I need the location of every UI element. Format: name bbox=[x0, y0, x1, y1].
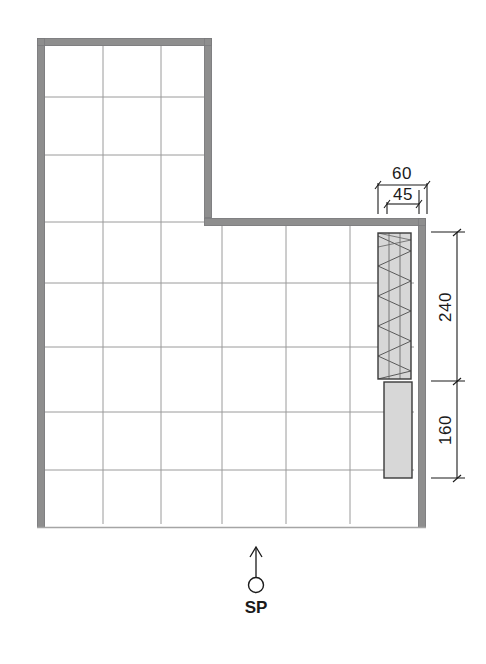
arrow-up-icon bbox=[250, 547, 262, 578]
wall-right-upper-wing bbox=[204, 38, 212, 218]
tile-grid-upper-wing bbox=[44, 42, 207, 222]
fixture-plain-lower bbox=[384, 382, 412, 478]
tile-grid-main-body bbox=[44, 222, 414, 524]
wall-left bbox=[37, 38, 45, 528]
wall-top-main-body bbox=[204, 218, 426, 226]
sp-label: SP bbox=[245, 598, 268, 617]
dimension-label-160: 160 bbox=[436, 415, 455, 445]
plan-canvas: 60 45 240 160 SP bbox=[0, 0, 486, 664]
dimension-label-60: 60 bbox=[392, 164, 412, 183]
fixture-hatched-upper bbox=[378, 233, 411, 379]
dimension-label-240: 240 bbox=[436, 292, 455, 322]
wall-right-main-body bbox=[418, 218, 426, 528]
sp-marker: SP bbox=[245, 547, 268, 617]
sp-circle-icon bbox=[249, 578, 264, 593]
dimension-label-45: 45 bbox=[393, 185, 413, 204]
floor-plan-drawing: 60 45 240 160 SP bbox=[0, 0, 486, 664]
wall-top-upper-wing bbox=[37, 38, 212, 46]
tile-grid bbox=[44, 42, 414, 524]
